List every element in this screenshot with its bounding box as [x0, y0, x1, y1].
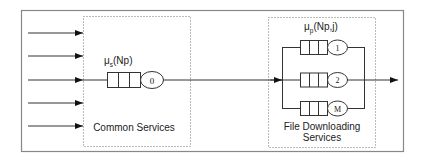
download-services-label-line1: File Downloading — [284, 121, 361, 132]
common-rate-label: μs(Np) — [104, 55, 132, 68]
common-services-label: Common Services — [93, 122, 175, 133]
server-1-label: 1 — [336, 44, 340, 53]
server-m-label: M — [334, 105, 341, 114]
download-queue-1 — [301, 40, 348, 55]
download-rate-label: μp(Np,j) — [304, 21, 338, 35]
incoming-arrows — [28, 33, 83, 126]
queueing-network-diagram: 0 μs(Np) Common Services 1 2 M — [0, 0, 422, 159]
server-2-label: 2 — [336, 76, 340, 85]
download-queue-2 — [301, 73, 348, 88]
download-services-label-line2: Services — [303, 132, 341, 143]
common-queue — [83, 72, 282, 89]
server-0-label: 0 — [150, 76, 155, 86]
